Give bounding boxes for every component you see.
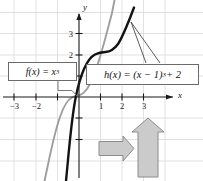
callout-f-body: (x) = x xyxy=(29,66,56,77)
x-tick-label-1: 1 xyxy=(95,101,107,111)
x-tick-label-2: 2 xyxy=(116,101,128,111)
x-axis-arrowhead xyxy=(166,94,173,99)
x-axis-label: x xyxy=(178,90,182,100)
leader-tail-f xyxy=(58,81,77,96)
y-tick-label-3: 3 xyxy=(63,29,73,39)
callout-h-tail: + 2 xyxy=(166,69,181,80)
y-axis-label: y xyxy=(83,2,87,12)
x-tick-label--2: −2 xyxy=(28,101,45,111)
y-tick-label-2: 2 xyxy=(63,50,73,60)
callout-f-exponent: 3 xyxy=(56,68,59,75)
x-tick-label--3: −3 xyxy=(6,101,23,111)
cubic-translation-figure: x y −3 −2 1 2 3 1 2 3 f(x) = x3 h(x) = (… xyxy=(0,0,203,181)
leader-lines-h xyxy=(131,22,160,63)
x-tick-label-3: 3 xyxy=(138,101,150,111)
callout-h-equation: h(x) = (x − 1)3 + 2 xyxy=(86,64,199,85)
up-arrow xyxy=(132,118,164,177)
y-axis-arrowhead xyxy=(76,13,81,20)
graph-canvas xyxy=(0,0,203,181)
callout-h-body: (x) = (x − 1) xyxy=(109,69,162,80)
callout-f-equation: f(x) = x3 xyxy=(8,62,77,81)
